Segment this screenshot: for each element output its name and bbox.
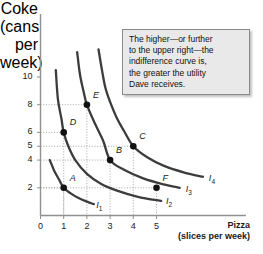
data-point-E (84, 101, 91, 108)
point-label-C: C (139, 131, 146, 141)
point-label-D: D (70, 117, 77, 127)
point-label-E: E (93, 90, 99, 100)
x-tick-label-2: 2 (79, 221, 95, 231)
curve-label-I4: I4 (209, 173, 215, 185)
y-tick-label-4: 4 (19, 154, 33, 164)
callout-line-5: Dave receives. (129, 79, 244, 90)
data-point-B (107, 157, 114, 164)
x-tick-label-0: 0 (33, 221, 49, 231)
x-tick-label-3: 3 (102, 221, 118, 231)
curve-label-I1: I1 (96, 200, 102, 212)
callout-line-4: the greater the utility (129, 68, 244, 79)
y-tick-label-5: 5 (19, 140, 33, 150)
data-point-A (60, 185, 67, 192)
x-tick-label-5: 5 (149, 221, 165, 231)
y-tick-label-6: 6 (19, 126, 33, 136)
indifference-curve-chart: Coke (cans per week) Pizza (slices per w… (0, 0, 263, 254)
data-point-F (153, 185, 160, 192)
x-tick-label-4: 4 (125, 221, 141, 231)
point-label-B: B (116, 145, 122, 155)
callout-line-1: The higher—or further (129, 34, 244, 45)
point-label-F: F (163, 173, 169, 183)
data-point-C (130, 143, 137, 150)
x-tick-label-1: 1 (56, 221, 72, 231)
callout-line-2: to the upper right—the (129, 45, 244, 56)
callout-line-3: indifference curve is, (129, 56, 244, 67)
y-tick-label-2: 2 (19, 182, 33, 192)
curve-label-I3: I3 (186, 184, 192, 196)
point-label-A: A (70, 173, 76, 183)
y-tick-label-8: 8 (19, 99, 33, 109)
annotation-callout: The higher—or further to the upper right… (122, 29, 250, 95)
y-tick-label-10: 10 (19, 71, 33, 81)
curve-label-I2: I2 (166, 196, 172, 208)
data-point-D (60, 129, 67, 136)
